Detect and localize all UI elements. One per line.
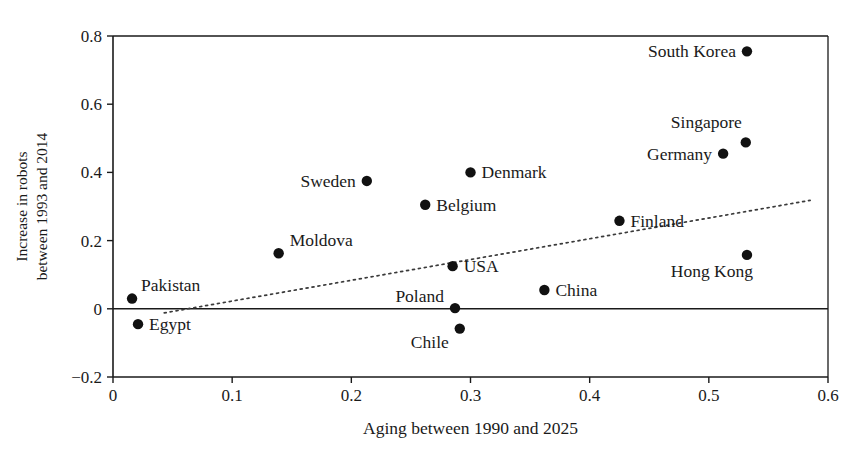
point-label-south-korea: South Korea [648, 41, 736, 61]
data-point-belgium[interactable] [420, 200, 430, 210]
point-label-denmark: Denmark [482, 162, 547, 182]
y-axis-title-line2: between 1993 and 2014 [33, 132, 50, 280]
x-tick-label: 0 [109, 386, 118, 405]
data-point-poland[interactable] [450, 303, 460, 313]
x-axis-title: Aging between 1990 and 2025 [363, 418, 578, 438]
data-point-finland[interactable] [614, 216, 624, 226]
y-tick-label: 0.4 [81, 163, 103, 182]
point-label-singapore: Singapore [671, 112, 742, 132]
y-tick-label: 0.8 [81, 27, 102, 46]
point-label-germany: Germany [647, 144, 712, 164]
axis-group: −0.200.20.40.60.800.10.20.30.40.50.6 [71, 27, 838, 405]
point-label-pakistan: Pakistan [141, 275, 201, 295]
point-label-hong-kong: Hong Kong [671, 261, 753, 281]
data-point-south-korea[interactable] [742, 46, 752, 56]
data-point-china[interactable] [539, 285, 549, 295]
point-label-china: China [555, 280, 597, 300]
data-point-usa[interactable] [447, 261, 457, 271]
data-point-hong-kong[interactable] [742, 250, 752, 260]
point-labels-group: PakistanEgyptMoldovaSwedenBelgiumUSAPola… [141, 41, 753, 351]
data-point-denmark[interactable] [465, 167, 475, 177]
y-tick-label: 0.2 [81, 232, 102, 251]
point-label-belgium: Belgium [436, 195, 497, 215]
point-label-usa: USA [464, 256, 499, 276]
point-label-poland: Poland [395, 286, 444, 306]
plot-canvas: −0.200.20.40.60.800.10.20.30.40.50.6 Pak… [0, 0, 867, 451]
data-point-sweden[interactable] [362, 176, 372, 186]
scatter-plot-figure: −0.200.20.40.60.800.10.20.30.40.50.6 Pak… [0, 0, 867, 451]
y-tick-label: 0.6 [81, 95, 102, 114]
y-tick-label: 0 [94, 300, 103, 319]
point-label-chile: Chile [411, 332, 449, 352]
point-label-sweden: Sweden [300, 171, 356, 191]
point-label-egypt: Egypt [149, 314, 191, 334]
data-point-pakistan[interactable] [127, 293, 137, 303]
point-label-finland: Finland [630, 211, 684, 231]
y-tick-label: −0.2 [71, 368, 102, 387]
data-point-singapore[interactable] [741, 137, 751, 147]
data-point-egypt[interactable] [133, 319, 143, 329]
x-tick-label: 0.1 [222, 386, 243, 405]
x-tick-label: 0.3 [460, 386, 481, 405]
x-tick-label: 0.4 [579, 386, 601, 405]
y-axis-title-line1: Increase in robots [13, 151, 30, 261]
data-point-moldova[interactable] [273, 248, 283, 258]
data-point-germany[interactable] [718, 148, 728, 158]
data-point-chile[interactable] [455, 323, 465, 333]
point-label-moldova: Moldova [290, 230, 353, 250]
x-tick-label: 0.2 [341, 386, 362, 405]
x-tick-label: 0.5 [698, 386, 719, 405]
x-tick-label: 0.6 [817, 386, 838, 405]
